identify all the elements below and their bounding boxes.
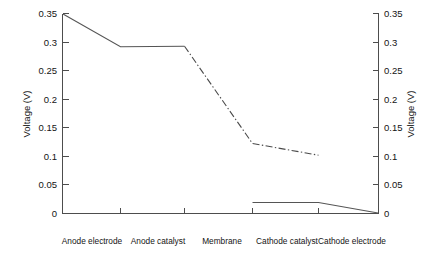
- right-tick-label-025: 0.25: [384, 65, 403, 76]
- x-label-cathode-electrode: Cathode electrode: [318, 236, 386, 246]
- series-upper-solid-segment: [63, 14, 185, 47]
- x-label-membrane: Membrane: [202, 236, 242, 246]
- left-y-ticks: [63, 14, 69, 214]
- left-axis-title: Voltage (V): [21, 91, 32, 138]
- right-tick-label-015: 0.15: [384, 122, 403, 133]
- left-tick-label-020: 0.2: [44, 94, 57, 105]
- x-category-ticks: [121, 208, 319, 214]
- right-tick-label-035: 0.35: [384, 8, 403, 19]
- right-tick-label-000: 0: [384, 208, 389, 219]
- series-middle-dash-dot-segment: [185, 46, 319, 155]
- right-y-ticks: [373, 14, 379, 214]
- left-tick-label-010: 0.1: [44, 151, 57, 162]
- left-tick-label-015: 0.15: [39, 122, 58, 133]
- left-tick-label-000: 0: [52, 208, 57, 219]
- right-tick-label-030: 0.3: [384, 37, 397, 48]
- left-tick-label-025: 0.25: [39, 65, 58, 76]
- left-y-tick-labels: 0.35 0.3 0.25 0.2 0.15 0.1 0.05 0: [39, 8, 58, 219]
- right-tick-label-020: 0.2: [384, 94, 397, 105]
- voltage-distribution-line-chart: 0.35 0.3 0.25 0.2 0.15 0.1 0.05 0 0.35 0…: [0, 0, 432, 262]
- right-axis-title: Voltage (V): [405, 91, 416, 138]
- x-label-anode-catalyst: Anode catalyst: [131, 236, 186, 246]
- left-tick-label-035: 0.35: [39, 8, 58, 19]
- right-y-tick-labels: 0.35 0.3 0.25 0.2 0.15 0.1 0.05 0: [384, 8, 403, 219]
- right-tick-label-005: 0.05: [384, 179, 403, 190]
- x-category-labels: Anode electrode Anode catalyst Membrane …: [62, 236, 387, 246]
- chart-container: 0.35 0.3 0.25 0.2 0.15 0.1 0.05 0 0.35 0…: [0, 0, 432, 262]
- left-tick-label-030: 0.3: [44, 37, 57, 48]
- right-tick-label-010: 0.1: [384, 151, 397, 162]
- series-lower-solid-segment: [253, 203, 379, 214]
- x-label-anode-electrode: Anode electrode: [62, 236, 123, 246]
- x-label-cathode-catalyst: Cathode catalyst: [256, 236, 318, 246]
- left-tick-label-005: 0.05: [39, 179, 58, 190]
